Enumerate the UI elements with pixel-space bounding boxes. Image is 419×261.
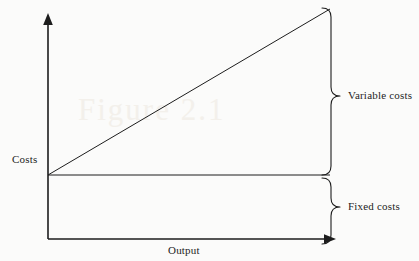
- variable-costs-label: Variable costs: [348, 89, 412, 101]
- y-axis-label: Costs: [12, 153, 37, 165]
- variable-costs-brace: [322, 8, 340, 175]
- chart-canvas: [0, 0, 419, 261]
- fixed-costs-label: Fixed costs: [348, 200, 400, 212]
- x-axis-label: Output: [168, 244, 200, 256]
- total-cost-line: [48, 9, 330, 175]
- y-axis-arrowhead: [43, 13, 53, 25]
- fixed-costs-brace: [322, 178, 340, 244]
- cost-behaviour-figure: Figure 2.1 Costs Output Variable costs F…: [0, 0, 419, 261]
- y-axis: [43, 13, 53, 239]
- x-axis: [48, 234, 336, 244]
